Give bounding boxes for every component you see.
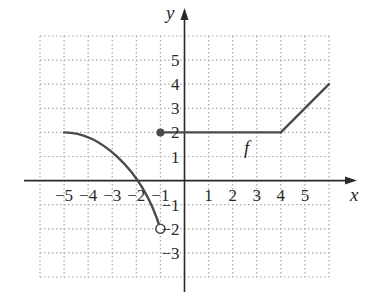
x-tick-label: 2 xyxy=(228,186,237,205)
y-axis-label: y xyxy=(164,2,175,23)
x-tick-label: −4 xyxy=(79,186,98,205)
y-tick-label: 1 xyxy=(171,148,180,167)
y-tick-label: 4 xyxy=(171,75,180,94)
y-tick-label: −3 xyxy=(161,244,179,263)
x-tick-label: 4 xyxy=(277,186,286,205)
y-axis-arrow-icon xyxy=(181,8,189,20)
x-tick-label: −5 xyxy=(55,186,73,205)
y-tick-label: 5 xyxy=(171,51,180,70)
axes xyxy=(24,8,357,292)
function-graph: −5−4−3−2−11234554321−1−2−3 x y f xyxy=(0,0,384,307)
closed-endpoint-dot xyxy=(156,128,164,136)
x-tick-label: 5 xyxy=(301,186,310,205)
function-label: f xyxy=(244,137,252,158)
y-tick-label: −2 xyxy=(161,220,179,239)
y-tick-label: −1 xyxy=(161,196,179,215)
x-tick-label: −3 xyxy=(103,186,121,205)
function-f xyxy=(64,84,329,233)
y-tick-label: 3 xyxy=(171,99,180,118)
x-axis-label: x xyxy=(349,184,359,205)
x-tick-label: 3 xyxy=(253,186,262,205)
x-tick-label: −2 xyxy=(127,186,145,205)
y-tick-label: 2 xyxy=(171,123,180,142)
x-tick-label: 1 xyxy=(204,186,213,205)
